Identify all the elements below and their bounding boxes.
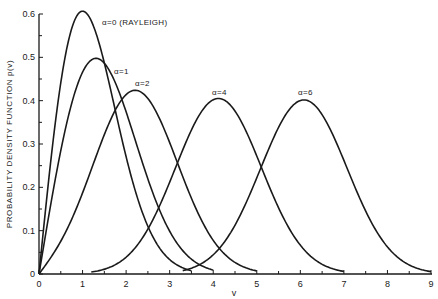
x-tick-label: 2 [124,279,129,289]
curve-label-alpha-0: α=0 (RAYLEIGH) [102,18,167,27]
x-tick-label: 8 [385,279,390,289]
x-tick-label: 7 [341,279,346,289]
curve-alpha-1 [39,58,213,274]
x-ticks: 0123456789 [36,270,433,289]
y-tick-label: 0.1 [22,226,35,236]
curve-label-alpha-6: α=6 [298,88,313,97]
x-tick-label: 3 [167,279,172,289]
x-axis-title: v [232,288,237,298]
curve-label-alpha-2: α=2 [135,79,150,88]
y-ticks: 00.10.20.30.40.50.6 [22,9,43,279]
curve-label-alpha-1: α=1 [114,67,129,76]
x-tick-label: 1 [80,279,85,289]
x-tick-label: 5 [254,279,259,289]
y-axis-title: PROBABILITY DENSITY FUNCTION p(v) [5,60,14,228]
y-tick-label: 0.4 [22,96,35,106]
curve-alpha-2 [39,90,257,274]
y-tick-label: 0.5 [22,52,35,62]
x-tick-label: 4 [211,279,216,289]
y-tick-label: 0 [30,269,35,279]
y-tick-label: 0.3 [22,139,35,149]
curve-alpha-6 [183,100,431,272]
curve-group [39,11,431,274]
rician-pdf-chart: 0123456789 00.10.20.30.40.50.6 α=0 (RAYL… [0,0,438,299]
y-tick-label: 0.6 [22,9,35,19]
axes: 0123456789 00.10.20.30.40.50.6 [22,9,433,289]
x-tick-label: 9 [428,279,433,289]
curve-label-alpha-4: α=4 [212,88,227,97]
x-tick-label: 0 [36,279,41,289]
x-tick-label: 6 [298,279,303,289]
y-tick-label: 0.2 [22,182,35,192]
